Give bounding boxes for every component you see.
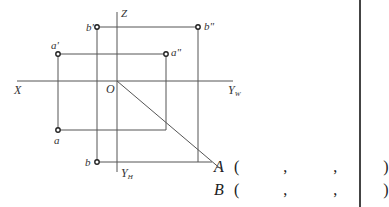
comma: , [333, 159, 339, 175]
point-b-prime [95, 25, 99, 29]
open-paren: ( [234, 182, 239, 198]
point-b [95, 160, 99, 164]
point-b-double-prime [196, 25, 200, 29]
yw-subscript: W [235, 90, 241, 98]
label-b-prime: b' [86, 22, 94, 33]
point-a-prime [56, 52, 60, 56]
origin-label: O [106, 83, 115, 95]
yh-axis-label: YH [121, 167, 133, 181]
comma: , [283, 182, 289, 198]
point-a [56, 128, 60, 132]
x-axis-label: X [14, 84, 21, 96]
yw-main: Y [228, 83, 235, 97]
comma: , [283, 159, 289, 175]
label-a-double-prime: a" [171, 47, 181, 58]
label-a: a [54, 135, 60, 146]
yh-main: Y [121, 166, 128, 180]
yw-axis-label: YW [228, 84, 241, 98]
yh-subscript: H [128, 173, 133, 181]
miter-line [117, 81, 222, 170]
label-b-double-prime: b" [204, 21, 214, 32]
z-axis-label: Z [121, 8, 127, 19]
point-a-double-prime [164, 52, 168, 56]
comma: , [333, 182, 339, 198]
open-paren: ( [234, 159, 239, 175]
answer-row-a: A ( , , ) [214, 159, 389, 175]
label-a-prime: a' [51, 40, 59, 51]
answer-label-b: B [214, 182, 230, 198]
label-b: b [85, 157, 91, 168]
answer-label-a: A [214, 159, 230, 175]
close-paren: ) [383, 182, 388, 198]
close-paren: ) [383, 159, 388, 175]
page-edge [359, 0, 361, 207]
answer-row-b: B ( , , ) [214, 182, 389, 198]
